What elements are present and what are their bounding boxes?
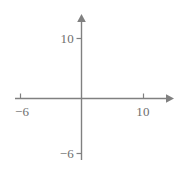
y-axis-tick-label-neg6: −6 bbox=[47, 147, 74, 160]
y-axis-tick-label-10: 10 bbox=[50, 32, 74, 45]
x-axis-tick-label-10: 10 bbox=[131, 105, 155, 118]
coordinate-plane-figure: 10 −6 −6 10 bbox=[0, 0, 180, 172]
x-axis-tick-label-neg6: −6 bbox=[8, 105, 36, 118]
axes-graphic bbox=[0, 0, 180, 172]
x-axis-arrowhead bbox=[166, 94, 174, 103]
y-axis-arrowhead bbox=[77, 14, 86, 22]
